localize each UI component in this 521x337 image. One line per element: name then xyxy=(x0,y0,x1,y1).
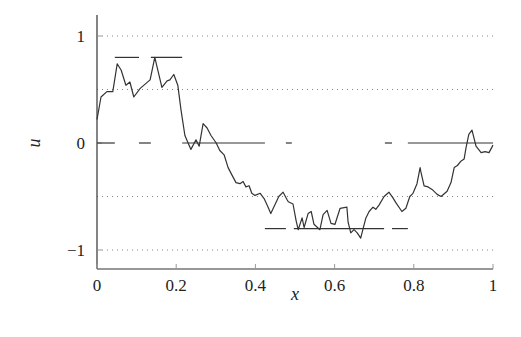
x-tick-label: 1 xyxy=(489,276,498,295)
line-chart: 00.20.40.60.81 −101 x u xyxy=(0,0,521,337)
y-tick-label: 1 xyxy=(77,27,86,46)
x-tick-label: 0.4 xyxy=(245,276,267,295)
data-curve xyxy=(97,57,493,238)
y-tick-label: −1 xyxy=(67,241,85,260)
x-axis-label: x xyxy=(290,284,299,304)
y-axis-label: u xyxy=(24,139,44,148)
piecewise-constant-levels xyxy=(97,57,493,228)
x-tick-label: 0.8 xyxy=(403,276,424,295)
x-tick-label: 0.2 xyxy=(166,276,187,295)
axes xyxy=(97,15,493,269)
y-tick-label: 0 xyxy=(77,134,86,153)
x-tick-label: 0 xyxy=(93,276,102,295)
x-tick-label: 0.6 xyxy=(324,276,345,295)
